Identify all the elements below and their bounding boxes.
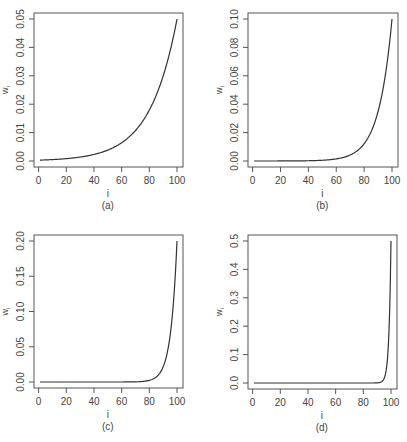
y-axis-label: wi [0, 86, 11, 95]
y-tick-label: 0.08 [229, 37, 240, 57]
chart-panel-b: 0.000.020.040.060.080.10wi020406080100i(… [214, 9, 401, 211]
x-tick-label: 80 [359, 175, 371, 186]
x-tick-label: 40 [302, 397, 314, 408]
y-tick-label: 0.00 [15, 151, 26, 171]
y-tick-label: 0.0 [229, 376, 240, 390]
y-tick-label: 0.20 [15, 231, 26, 251]
x-tick-label: 60 [331, 175, 343, 186]
y-tick-label: 0.03 [15, 66, 26, 86]
y-tick-label: 0.1 [229, 347, 240, 361]
y-tick-label: 0.05 [15, 9, 26, 29]
x-tick-label: 100 [169, 175, 186, 186]
y-tick-label: 0.3 [229, 290, 240, 304]
panel-label: (b) [316, 200, 328, 211]
x-tick-label: 20 [275, 397, 287, 408]
plot-frame [34, 235, 183, 388]
y-axis: 0.000.020.040.060.080.10wi [214, 9, 248, 171]
y-tick-label: 0.00 [15, 372, 26, 392]
x-tick-label: 20 [275, 175, 287, 186]
y-axis-label: wi [214, 308, 225, 317]
x-axis: 020406080100i [36, 388, 186, 420]
y-axis-label: wi [214, 86, 225, 95]
plot-frame [248, 13, 398, 167]
x-tick-label: 0 [36, 175, 42, 186]
x-tick-label: 100 [383, 397, 400, 408]
y-axis: 0.000.050.100.150.20wi [0, 231, 34, 392]
y-tick-label: 0.10 [229, 9, 240, 29]
x-axis-label: i [107, 409, 109, 420]
y-tick-label: 0.04 [15, 37, 26, 57]
x-axis: 020406080100i [250, 389, 400, 421]
x-tick-label: 40 [88, 175, 100, 186]
x-tick-label: 0 [36, 396, 42, 407]
chart-panel-a: 0.000.010.020.030.040.05wi020406080100i(… [0, 9, 186, 211]
x-axis-label: i [321, 188, 323, 199]
y-tick-label: 0.02 [15, 94, 26, 114]
weight-curve [40, 241, 177, 382]
panel-label: (c) [102, 421, 114, 432]
y-tick-label: 0.5 [229, 234, 240, 248]
x-tick-label: 0 [250, 397, 256, 408]
weight-curve [254, 19, 392, 161]
chart-panel-d: 0.00.10.20.30.40.5wi020406080100i(d) [214, 234, 400, 433]
y-tick-label: 0.01 [15, 122, 26, 142]
x-tick-label: 60 [116, 175, 128, 186]
x-tick-label: 80 [144, 396, 156, 407]
x-tick-label: 100 [169, 396, 186, 407]
x-tick-label: 0 [250, 175, 256, 186]
x-tick-label: 80 [358, 397, 370, 408]
y-tick-label: 0.4 [229, 262, 240, 276]
y-tick-label: 0.00 [229, 151, 240, 171]
y-tick-label: 0.10 [15, 301, 26, 321]
x-tick-label: 80 [144, 175, 156, 186]
y-tick-label: 0.06 [229, 66, 240, 86]
y-axis-label: wi [0, 308, 11, 317]
x-tick-label: 20 [61, 175, 73, 186]
x-tick-label: 20 [61, 396, 73, 407]
y-tick-label: 0.05 [15, 337, 26, 357]
plot-frame [248, 235, 397, 389]
x-axis-label: i [107, 188, 109, 199]
y-tick-label: 0.02 [229, 122, 240, 142]
y-axis: 0.00.10.20.30.40.5wi [214, 234, 248, 390]
y-axis: 0.000.010.020.030.040.05wi [0, 9, 34, 171]
x-axis: 020406080100i [250, 167, 401, 199]
x-tick-label: 60 [330, 397, 342, 408]
y-tick-label: 0.04 [229, 94, 240, 114]
x-tick-label: 60 [116, 396, 128, 407]
x-tick-label: 40 [303, 175, 315, 186]
weight-curve [254, 241, 391, 383]
plot-frame [34, 13, 183, 167]
y-tick-label: 0.15 [15, 266, 26, 286]
y-tick-label: 0.2 [229, 319, 240, 333]
panel-label: (a) [102, 200, 114, 211]
figure-canvas: 0.000.010.020.030.040.05wi020406080100i(… [0, 0, 407, 442]
panel-label: (d) [316, 422, 328, 433]
x-axis: 020406080100i [36, 167, 186, 199]
x-tick-label: 100 [384, 175, 401, 186]
weight-curve [40, 19, 177, 160]
x-axis-label: i [321, 410, 323, 421]
x-tick-label: 40 [88, 396, 100, 407]
chart-panel-c: 0.000.050.100.150.20wi020406080100i(c) [0, 231, 186, 432]
